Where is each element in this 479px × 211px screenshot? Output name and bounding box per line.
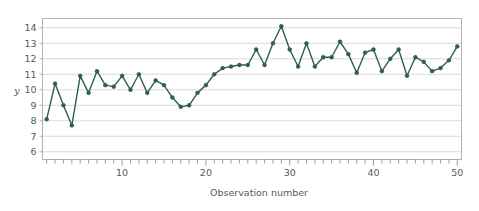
data-point [447,58,451,62]
data-point [397,48,401,52]
data-point [271,41,275,45]
data-point [296,65,300,69]
data-point [372,48,376,52]
data-point [414,55,418,59]
y-tick-label-8: 8 [30,115,36,126]
data-point [313,65,317,69]
data-point [380,69,384,73]
x-tick-label-20: 20 [200,167,212,178]
data-point [196,91,200,95]
data-point [70,124,74,128]
data-point [179,105,183,109]
y-tick-label-7: 7 [30,131,36,142]
data-point [305,41,309,45]
x-axis-title: Observation number [210,187,308,198]
data-point [422,60,426,64]
data-point [45,117,49,121]
data-point [254,48,258,52]
data-point [137,72,141,76]
data-point [187,103,191,107]
data-point [145,91,149,95]
y-tick-label-11: 11 [24,69,36,80]
data-point [87,91,91,95]
data-point [162,83,166,87]
data-point [103,83,107,87]
y-tick-label-10: 10 [24,84,36,95]
data-point [246,63,250,67]
data-point [154,79,158,83]
data-point [221,66,225,70]
data-point [430,69,434,73]
data-point [204,83,208,87]
data-point [112,85,116,89]
data-point [229,65,233,69]
data-point [62,103,66,107]
data-point [279,24,283,28]
data-point [338,40,342,44]
data-point [439,66,443,70]
y-tick-label-6: 6 [30,146,36,157]
data-point [263,63,267,67]
data-point [388,57,392,61]
data-point [238,63,242,67]
y-tick-label-13: 13 [24,38,36,49]
data-point [212,72,216,76]
y-tick-label-14: 14 [24,22,36,33]
data-point [355,71,359,75]
data-point [120,74,124,78]
x-tick-label-40: 40 [367,167,379,178]
data-point [346,52,350,56]
data-point [321,55,325,59]
x-tick-label-10: 10 [116,167,128,178]
data-point [455,44,459,48]
data-point [330,55,334,59]
data-point [405,74,409,78]
chart-canvas: 67891011121314 1020304050 y Observation … [0,0,479,211]
x-tick-label-50: 50 [451,167,463,178]
x-tick-label-30: 30 [284,167,296,178]
data-point [288,48,292,52]
data-point [95,69,99,73]
y-tick-label-9: 9 [30,100,36,111]
data-point [129,88,133,92]
data-point [363,51,367,55]
data-point [53,82,57,86]
data-point [170,96,174,100]
data-point [78,74,82,78]
y-tick-label-12: 12 [24,53,36,64]
line-chart: 67891011121314 1020304050 y Observation … [0,0,479,211]
y-axis-title: y [13,85,20,96]
